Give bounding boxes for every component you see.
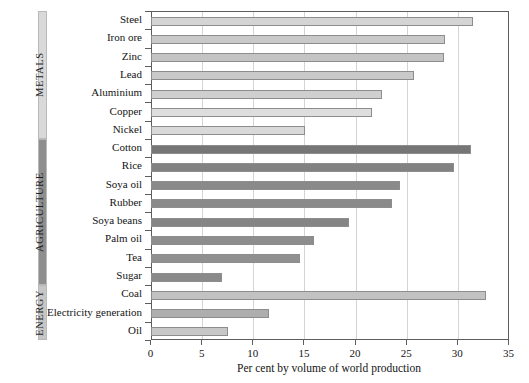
x-tick-30 [457,340,458,345]
y-tick [145,66,151,67]
category-label-soya-beans: Soya beans [92,215,142,226]
bar-aluminium[interactable] [151,90,382,99]
bar-iron-ore[interactable] [151,35,446,44]
x-tick-10 [252,340,253,345]
x-tick-label-30: 30 [442,348,472,359]
category-label-oil: Oil [128,325,142,336]
x-axis-title: Per cent by volume of world production [150,362,508,374]
category-label-aluminium: Aluminium [91,87,142,98]
category-axis: SteelIron oreZincLeadAluminiumCopperNick… [0,0,150,383]
category-label-nickel: Nickel [113,124,142,135]
x-tick-label-0: 0 [136,348,166,359]
category-label-sugar: Sugar [116,270,142,281]
bars-layer [151,11,509,340]
y-tick [145,121,151,122]
y-tick [145,139,151,140]
bar-tea[interactable] [151,254,300,263]
x-tick-label-35: 35 [494,348,524,359]
category-label-copper: Copper [110,106,142,117]
bar-chart: SteelIron oreZincLeadAluminiumCopperNick… [0,0,529,383]
category-label-steel: Steel [120,14,142,25]
y-tick [145,194,151,195]
x-tick-15 [303,340,304,345]
bar-electricity-generation[interactable] [151,309,270,318]
y-tick [145,29,151,30]
bar-coal[interactable] [151,291,486,300]
bar-cotton[interactable] [151,145,471,154]
y-tick [145,157,151,158]
x-tick-20 [355,340,356,345]
x-tick-label-10: 10 [238,348,268,359]
group-label-metals: METALS [34,53,45,98]
x-tick-label-25: 25 [391,348,421,359]
x-tick-label-15: 15 [289,348,319,359]
group-label-energy: ENERGY [34,289,45,335]
category-label-electricity-generation: Electricity generation [47,307,142,318]
x-tick-35 [508,340,509,345]
category-label-palm-oil: Palm oil [105,233,142,244]
category-label-coal: Coal [121,288,142,299]
y-tick [145,212,151,213]
y-tick [145,48,151,49]
x-tick-label-20: 20 [340,348,370,359]
x-tick-25 [406,340,407,345]
category-label-tea: Tea [126,252,142,263]
category-label-lead: Lead [120,69,142,80]
y-tick [145,303,151,304]
category-label-zinc: Zinc [122,51,142,62]
x-tick-0 [150,340,151,345]
y-tick [145,267,151,268]
bar-soya-beans[interactable] [151,218,349,227]
bar-steel[interactable] [151,17,473,26]
x-tick-label-5: 5 [187,348,217,359]
category-label-rice: Rice [122,160,142,171]
category-label-iron-ore: Iron ore [107,32,142,43]
bar-palm-oil[interactable] [151,236,315,245]
y-tick [145,84,151,85]
bar-lead[interactable] [151,71,415,80]
y-tick [145,102,151,103]
y-tick [145,11,151,12]
bar-sugar[interactable] [151,273,223,282]
y-tick [145,285,151,286]
group-label-agriculture: AGRICULTURE [34,172,45,252]
x-tick-5 [201,340,202,345]
category-label-rubber: Rubber [110,197,142,208]
bar-oil[interactable] [151,327,229,336]
bar-rubber[interactable] [151,199,392,208]
y-tick [145,176,151,177]
category-label-soya-oil: Soya oil [106,179,142,190]
y-tick [145,322,151,323]
bar-soya-oil[interactable] [151,181,401,190]
bar-zinc[interactable] [151,53,445,62]
bar-copper[interactable] [151,108,373,117]
y-tick [145,230,151,231]
bar-rice[interactable] [151,163,455,172]
bar-nickel[interactable] [151,126,305,135]
y-tick [145,249,151,250]
category-label-cotton: Cotton [112,142,142,153]
